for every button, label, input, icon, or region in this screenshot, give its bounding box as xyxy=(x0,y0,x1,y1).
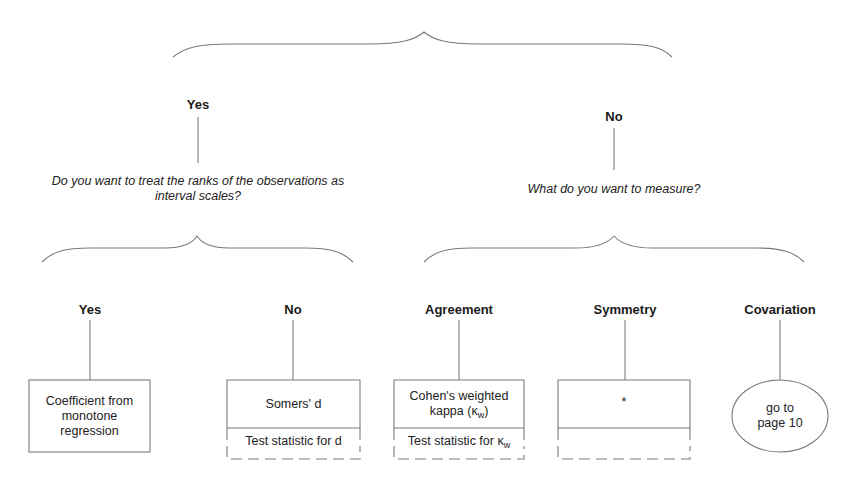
box-text-line: Cohen's weighted xyxy=(394,389,524,404)
kappa-suffix: ) xyxy=(484,404,488,418)
lower-left-brace xyxy=(42,236,353,262)
kappa-test-label: Test statistic for κ xyxy=(408,434,504,448)
box-kappa-text: Cohen's weighted kappa (κw) xyxy=(394,389,524,423)
ellipse-text-line: go to xyxy=(732,401,828,416)
leaf-label-agreement: Agreement xyxy=(425,302,493,317)
box-text-line: * xyxy=(558,395,690,410)
question-measure: What do you want to measure? xyxy=(484,182,744,197)
top-brace xyxy=(173,32,672,57)
ellipse-covariation-text: go to page 10 xyxy=(732,401,828,431)
box-somers-text: Somers' d xyxy=(227,397,360,412)
leaf-label-covariation: Covariation xyxy=(744,302,816,317)
box-text-line: regression xyxy=(29,424,150,439)
box-text-line: kappa (κw) xyxy=(394,404,524,423)
question-interval-scales: Do you want to treat the ranks of the ob… xyxy=(30,174,366,204)
box-symmetry-dashed xyxy=(558,446,690,459)
box-text-line: monotone xyxy=(29,409,150,424)
kappa-test-subscript: w xyxy=(504,440,511,450)
question-line-1: Do you want to treat the ranks of the ob… xyxy=(30,174,366,189)
box-text-line: Coefficient from xyxy=(29,394,150,409)
box-kappa-test-text: Test statistic for κw xyxy=(394,434,524,453)
lower-right-brace xyxy=(424,236,804,262)
branch-label-yes: Yes xyxy=(187,97,209,112)
kappa-label: kappa (κ xyxy=(430,404,478,418)
question-measure-line: What do you want to measure? xyxy=(484,182,744,197)
box-coefficient-text: Coefficient from monotone regression xyxy=(29,394,150,439)
branch-label-no: No xyxy=(605,109,622,124)
leaf-label-symmetry: Symmetry xyxy=(594,302,657,317)
box-text-line: Somers' d xyxy=(227,397,360,412)
leaf-label-yes: Yes xyxy=(79,302,101,317)
ellipse-text-line: page 10 xyxy=(732,416,828,431)
box-somers-test-text: Test statistic for d xyxy=(227,434,360,449)
leaf-label-no: No xyxy=(284,302,301,317)
box-symmetry-text: * xyxy=(558,395,690,410)
question-line-2: interval scales? xyxy=(30,189,366,204)
